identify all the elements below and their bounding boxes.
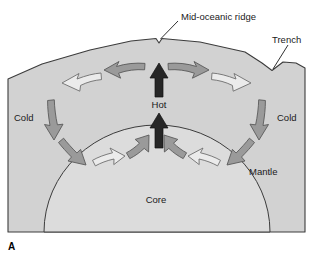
label-mantle: Mantle bbox=[249, 166, 278, 177]
label-cold-right: Cold bbox=[277, 112, 297, 123]
label-cold-left: Cold bbox=[14, 112, 34, 123]
label-trench: Trench bbox=[272, 34, 301, 45]
label-core: Core bbox=[146, 194, 167, 205]
mantle-convection-diagram: Mid-oceanic ridge Trench Cold Cold Hot M… bbox=[0, 0, 321, 253]
label-mid-oceanic-ridge: Mid-oceanic ridge bbox=[181, 11, 256, 22]
ridge-leader-line bbox=[161, 21, 179, 39]
figure-panel: Mid-oceanic ridge Trench Cold Cold Hot M… bbox=[0, 0, 321, 253]
label-hot: Hot bbox=[152, 99, 167, 110]
panel-label-a: A bbox=[8, 241, 15, 252]
